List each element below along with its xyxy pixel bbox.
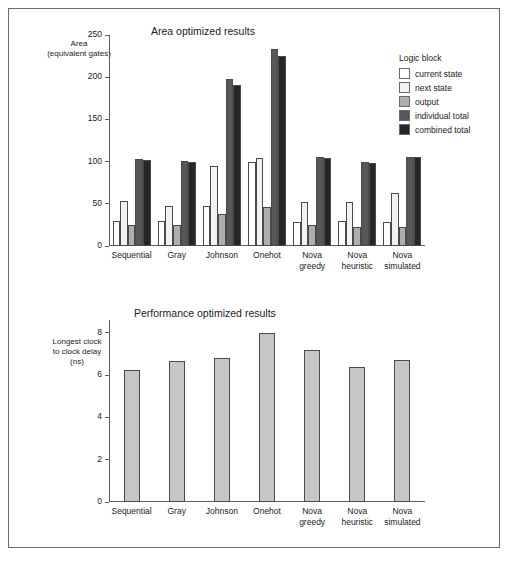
bar	[135, 159, 143, 246]
y-axis-tick-mark	[105, 459, 109, 460]
bar	[181, 161, 189, 246]
bar	[169, 361, 185, 502]
x-axis-category-label-line: Nova	[380, 250, 425, 261]
x-axis-category-label: Novasimulated	[380, 506, 425, 528]
y-axis-tick-label: 0	[97, 496, 102, 506]
x-axis-category-label-line: simulated	[380, 261, 425, 272]
bar	[369, 163, 377, 246]
x-axis-category-label-line: Onehot	[244, 250, 289, 261]
bar	[324, 158, 332, 246]
x-axis-category-label-line: Onehot	[244, 506, 289, 517]
x-axis-category-label-line: Johnson	[199, 250, 244, 261]
y-axis-tick-mark	[105, 417, 109, 418]
y-axis-label-line: to clock delay	[35, 347, 119, 357]
legend-swatch-icon	[399, 124, 410, 135]
plot-area-performance-chart: 02468SequentialGrayJohnsonOnehotNovagree…	[109, 320, 425, 502]
x-axis-category-label-line: Johnson	[199, 506, 244, 517]
legend-item: combined total	[399, 123, 470, 136]
y-axis-tick-mark	[105, 375, 109, 376]
x-axis-category-label: Novasimulated	[380, 250, 425, 272]
bar	[316, 157, 324, 246]
bar	[304, 350, 320, 502]
x-axis-category-label: Gray	[154, 250, 199, 261]
legend-rows: current statenext stateoutputindividual …	[399, 67, 470, 136]
bar	[271, 49, 279, 246]
y-axis-tick-label: 6	[97, 369, 102, 379]
bar	[293, 222, 301, 246]
bar	[394, 360, 410, 502]
bar	[210, 166, 218, 246]
legend-item-label: current state	[415, 69, 462, 79]
bar	[346, 202, 354, 246]
bar	[218, 214, 226, 246]
y-axis-tick-mark	[105, 246, 109, 247]
y-axis-tick-label: 0	[97, 240, 102, 250]
bar	[353, 227, 361, 246]
bar	[124, 370, 140, 502]
legend-item: next state	[399, 81, 470, 94]
y-axis-tick-mark	[105, 119, 109, 120]
legend-swatch-icon	[399, 82, 410, 93]
y-axis-tick-mark	[105, 77, 109, 78]
bar	[226, 79, 234, 246]
legend-item-label: next state	[415, 83, 452, 93]
chart-panel-performance: Performance optimized results Longest cl…	[9, 287, 501, 549]
bar	[173, 225, 181, 246]
y-axis-tick-label: 200	[88, 71, 102, 81]
x-axis-category-label: Novaheuristic	[335, 250, 380, 272]
bar	[214, 358, 230, 502]
y-axis-label-line: (ns)	[35, 357, 119, 367]
bar	[391, 193, 399, 246]
bar	[308, 225, 316, 246]
chart-panel-area: Area optimized results Area (equivalent …	[9, 9, 501, 281]
bar	[399, 227, 407, 246]
x-axis-category-label-line: greedy	[290, 517, 335, 528]
y-axis-tick-mark	[105, 332, 109, 333]
bar	[113, 221, 121, 246]
x-axis-category-label: Johnson	[199, 250, 244, 261]
legend-item-label: output	[415, 97, 439, 107]
x-axis-category-label-line: heuristic	[335, 517, 380, 528]
bar	[349, 367, 365, 502]
bar	[120, 201, 128, 246]
bar	[406, 157, 414, 246]
y-axis-tick-label: 50	[93, 198, 102, 208]
y-axis-tick-label: 4	[97, 411, 102, 421]
chart-legend: Logic block current statenext stateoutpu…	[399, 53, 470, 137]
x-axis-category-label-line: Gray	[154, 506, 199, 517]
y-axis-tick-mark	[105, 161, 109, 162]
legend-item: output	[399, 95, 470, 108]
x-axis-category-label-line: Sequential	[109, 506, 154, 517]
x-axis-category-label-line: Nova	[290, 250, 335, 261]
bar	[263, 207, 271, 246]
x-axis-category-label: Novagreedy	[290, 250, 335, 272]
x-axis-category-label-line: simulated	[380, 517, 425, 528]
x-axis-category-label: Sequential	[109, 250, 154, 261]
x-axis-category-label: Novagreedy	[290, 506, 335, 528]
x-axis-category-label-line: Sequential	[109, 250, 154, 261]
x-axis-category-label-line: greedy	[290, 261, 335, 272]
x-axis-category-label: Johnson	[199, 506, 244, 517]
y-axis-tick-mark	[105, 502, 109, 503]
x-axis-category-label: Sequential	[109, 506, 154, 517]
y-axis-label-line: Longest clock	[35, 337, 119, 347]
legend-item-label: individual total	[415, 111, 469, 121]
legend-swatch-icon	[399, 96, 410, 107]
plot-area-area-chart: 050100150200250SequentialGrayJohnsonOneh…	[109, 35, 425, 246]
bar	[248, 162, 256, 246]
legend-item: individual total	[399, 109, 470, 122]
y-axis-tick-label: 150	[88, 113, 102, 123]
bar	[158, 221, 166, 246]
y-axis-tick-mark	[105, 35, 109, 36]
x-axis-category-label-line: Gray	[154, 250, 199, 261]
bar	[414, 157, 422, 246]
bar	[256, 158, 264, 246]
bar	[361, 162, 369, 246]
y-axis-line	[109, 320, 110, 502]
y-axis-tick-label: 8	[97, 327, 102, 337]
y-axis-line	[109, 35, 110, 246]
bar	[143, 160, 151, 246]
x-axis-category-label-line: Nova	[335, 250, 380, 261]
bar	[128, 225, 136, 246]
bar	[278, 56, 286, 246]
